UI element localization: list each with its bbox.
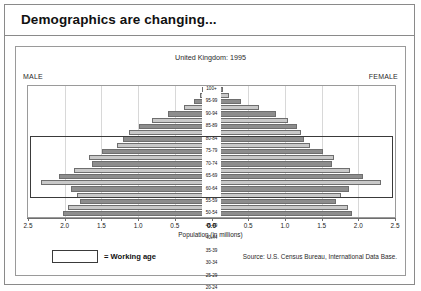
female-bar — [221, 174, 363, 179]
female-side-label: FEMALE — [369, 73, 398, 80]
x-axis-tick-label: 1.0 — [134, 222, 143, 229]
chart-title: United Kingdom: 1995 — [16, 53, 405, 62]
source-note: Source: U.S. Census Bureau, Internationa… — [243, 253, 397, 260]
x-axis-tick-label: 2.0 — [354, 222, 363, 229]
x-axis-tick — [138, 218, 139, 221]
male-bar — [123, 136, 203, 141]
male-bar — [89, 155, 202, 160]
x-axis-tick — [212, 218, 213, 221]
female-bar — [221, 105, 259, 110]
female-bar — [221, 161, 333, 166]
female-bar — [221, 118, 289, 123]
x-axis-tick-label: 1.5 — [317, 222, 326, 229]
female-bar — [221, 124, 297, 129]
x-axis-title: Population (in millions) — [16, 231, 405, 238]
female-bar — [221, 186, 349, 191]
male-bar — [184, 105, 203, 110]
pyramid-bars-layer: 100+95-9990-9485-8980-8475-7970-7465-696… — [28, 86, 395, 217]
x-axis-tick-label: 0.5 — [244, 222, 253, 229]
female-bar — [221, 143, 310, 148]
male-bar — [71, 186, 202, 191]
x-axis-tick-label: 2.0 — [60, 222, 69, 229]
age-group-label: 20-24 — [198, 286, 226, 291]
legend-label: = Working age — [104, 252, 156, 261]
page-title: Demographics are changing... — [21, 12, 217, 27]
working-age-swatch — [52, 250, 98, 263]
male-bar — [200, 93, 203, 98]
female-bar — [221, 168, 350, 173]
male-bar — [117, 143, 203, 148]
male-bar — [68, 205, 202, 210]
male-bar — [102, 149, 203, 154]
male-side-label: MALE — [23, 73, 43, 80]
female-bar — [221, 199, 337, 204]
male-bar — [129, 130, 202, 135]
female-bar — [221, 211, 352, 216]
slide-title-bar: Demographics are changing... — [5, 5, 414, 36]
male-bar — [152, 118, 202, 123]
chart-panel: United Kingdom: 1995 MALE FEMALE 100+95-… — [15, 46, 406, 276]
age-group-label: 35-39 — [198, 249, 226, 254]
x-axis-tick — [358, 218, 359, 221]
age-group-label: 30-34 — [198, 261, 226, 266]
female-bar — [221, 205, 348, 210]
female-bar — [221, 149, 324, 154]
x-axis-tick — [65, 218, 66, 221]
x-axis-tick — [248, 218, 249, 221]
male-bar — [41, 180, 203, 185]
male-bar — [63, 211, 203, 216]
x-axis-tick-label: 0.0 — [207, 222, 216, 229]
male-bar — [194, 99, 202, 104]
female-bar — [221, 155, 335, 160]
male-bar — [80, 199, 202, 204]
pyramid-plot-area: 100+95-9990-9485-8980-8475-7970-7465-696… — [27, 85, 396, 218]
pyramid-row: 0-4 — [28, 211, 395, 217]
x-axis-tick-label: 0.5 — [170, 222, 179, 229]
male-bar — [92, 161, 202, 166]
male-bar — [139, 124, 203, 129]
female-bar — [221, 130, 302, 135]
female-bar — [221, 93, 229, 98]
slide: Demographics are changing... United King… — [4, 4, 415, 285]
male-bar — [59, 174, 202, 179]
age-group-label: 100+ — [198, 87, 226, 92]
female-bar — [221, 136, 305, 141]
female-bar — [221, 180, 382, 185]
female-bar — [221, 193, 341, 198]
x-axis-tick — [395, 218, 396, 221]
x-axis-tick-label: 1.0 — [280, 222, 289, 229]
x-axis-tick — [28, 218, 29, 221]
x-axis-tick — [175, 218, 176, 221]
female-bar — [221, 99, 242, 104]
female-bar — [221, 111, 277, 116]
x-axis-tick — [322, 218, 323, 221]
x-axis-tick-label: 1.5 — [97, 222, 106, 229]
age-group-label: 25-29 — [198, 274, 226, 279]
x-axis-tick-label: 2.5 — [391, 222, 400, 229]
x-axis-tick-label: 2.5 — [24, 222, 33, 229]
male-bar — [168, 111, 202, 116]
x-axis-tick — [101, 218, 102, 221]
male-bar — [74, 168, 202, 173]
male-bar — [77, 193, 203, 198]
x-axis-tick — [285, 218, 286, 221]
